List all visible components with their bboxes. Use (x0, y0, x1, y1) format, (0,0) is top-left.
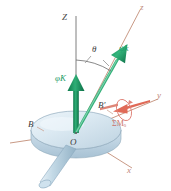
leader-B-prime (107, 110, 113, 114)
gyroscope-figure: Z z y x θ ψ̇k φ̇K B O B′ ΣMₒ (0, 0, 171, 191)
diagram-canvas (0, 0, 171, 191)
theta-leader-2 (103, 60, 109, 66)
vector-sum-moment-O (100, 100, 150, 114)
origin-point-marker (75, 132, 77, 134)
theta-arc (76, 60, 111, 71)
